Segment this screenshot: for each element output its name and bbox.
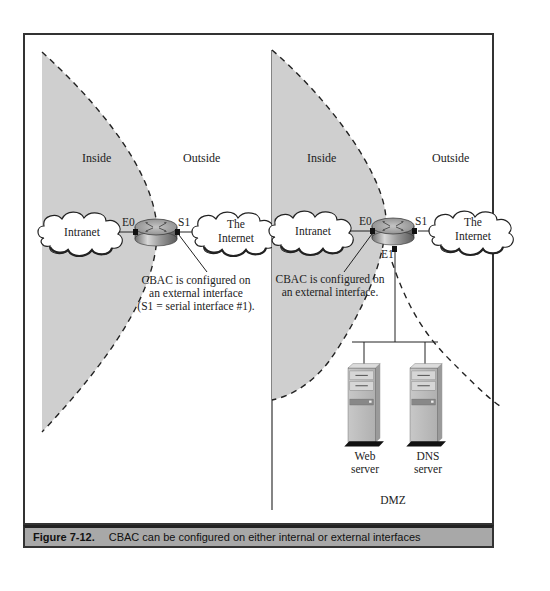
right-intranet-label: Intranet	[295, 225, 332, 237]
left-outside-label: Outside	[183, 151, 220, 165]
right-e1-label: E1	[381, 248, 394, 260]
network-diagram: Inside Outside Intranet The Internet E0 …	[0, 0, 550, 591]
right-internet-label-2: Internet	[455, 230, 492, 242]
left-s1-label: S1	[178, 216, 190, 228]
right-callout-2: an external interface.	[282, 286, 379, 298]
right-e0-label: E0	[359, 215, 372, 227]
dns-server-label-2: server	[414, 463, 442, 475]
right-s1-label: S1	[415, 215, 427, 227]
left-e0-label: E0	[122, 216, 135, 228]
left-callout-1: CBAC is configured on	[142, 274, 251, 287]
figure-caption: Figure 7-12. CBAC can be configured on e…	[23, 525, 494, 548]
right-inside-label: Inside	[307, 151, 336, 165]
left-internet-label-2: Internet	[218, 232, 255, 244]
left-intranet-label: Intranet	[64, 226, 101, 238]
right-router-icon	[372, 218, 414, 245]
left-port-s1	[175, 229, 180, 235]
right-panel: Inside Outside Intranet The Internet E0 …	[269, 50, 513, 506]
left-callout-3: (S1 = serial interface #1).	[137, 300, 254, 313]
web-server-icon	[344, 364, 384, 447]
dns-server-icon	[406, 364, 446, 447]
right-port-e0	[370, 228, 375, 234]
web-server-label-1: Web	[355, 450, 376, 462]
right-callout-1: CBAC is configured on	[276, 273, 385, 286]
left-internet-label-1: The	[227, 218, 245, 230]
dmz-label: DMZ	[380, 494, 406, 506]
left-port-e0	[133, 229, 138, 235]
right-port-s1	[412, 228, 417, 234]
dns-server-label-1: DNS	[416, 450, 439, 462]
left-callout-2: an external interface	[149, 287, 243, 299]
web-server-label-2: server	[351, 463, 379, 475]
left-router-icon	[135, 219, 177, 246]
left-inside-label: Inside	[82, 151, 111, 165]
right-dmz-boundary-dashed	[392, 262, 503, 408]
caption-label: Figure 7-12.	[33, 531, 95, 543]
left-panel: Inside Outside Intranet The Internet E0 …	[38, 52, 276, 432]
right-outside-label: Outside	[432, 151, 469, 165]
caption-text: CBAC can be configured on either interna…	[109, 531, 421, 543]
right-internet-label-1: The	[464, 216, 482, 228]
